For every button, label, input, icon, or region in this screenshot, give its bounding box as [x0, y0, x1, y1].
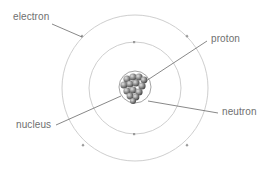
electron-marker — [133, 41, 135, 43]
electron-marker — [185, 144, 188, 147]
atom-diagram — [0, 0, 270, 174]
electron-marker — [81, 144, 84, 147]
nucleus-label: nucleus — [16, 119, 51, 130]
electron-marker — [133, 133, 135, 135]
electron-label: electron — [13, 11, 49, 22]
electron-marker — [185, 35, 188, 38]
neutron-leader — [148, 101, 218, 113]
neutron-label: neutron — [222, 106, 257, 117]
electron-leader — [52, 24, 82, 37]
nucleus — [119, 71, 151, 104]
proton-label: proton — [211, 33, 240, 44]
